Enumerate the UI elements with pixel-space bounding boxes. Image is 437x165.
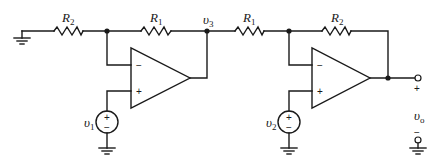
opamp2-plus: + bbox=[317, 86, 323, 97]
ground-v2-icon bbox=[281, 148, 297, 154]
node-output bbox=[385, 75, 390, 80]
wire bbox=[107, 91, 131, 111]
resistor-r1-right bbox=[235, 27, 264, 35]
ground-v1-icon bbox=[99, 148, 115, 154]
source2-minus: − bbox=[286, 122, 292, 133]
output-terminal-minus bbox=[415, 137, 421, 143]
label-v3: υ3 bbox=[203, 12, 214, 29]
circuit-diagram: − + + − − + + − + − R2 bbox=[0, 0, 437, 165]
wire bbox=[289, 31, 312, 65]
ground-output-icon bbox=[410, 148, 426, 154]
wire bbox=[190, 31, 207, 78]
label-r2-right: R2 bbox=[330, 10, 343, 27]
output-minus-sign: − bbox=[414, 127, 420, 138]
wire bbox=[107, 31, 131, 65]
label-r1-left: R1 bbox=[149, 10, 162, 27]
opamp-2 bbox=[312, 48, 370, 108]
node-v3 bbox=[204, 28, 209, 33]
resistor-r1-left bbox=[141, 27, 171, 35]
output-plus-sign: + bbox=[414, 83, 420, 94]
ground-left-icon bbox=[14, 31, 30, 44]
output-terminal-plus bbox=[415, 75, 421, 81]
wire bbox=[289, 91, 312, 111]
opamp2-minus: − bbox=[317, 60, 323, 71]
opamp1-minus: − bbox=[136, 60, 142, 71]
resistor-r2-left bbox=[54, 27, 83, 35]
opamp1-plus: + bbox=[136, 86, 142, 97]
label-r1-right: R1 bbox=[242, 10, 255, 27]
resistor-r2-right bbox=[322, 27, 351, 35]
label-vo: υo bbox=[414, 108, 425, 125]
opamp-1 bbox=[131, 48, 190, 108]
label-v1: υ1 bbox=[84, 115, 94, 132]
label-r2-left: R2 bbox=[61, 10, 74, 27]
source1-minus: − bbox=[104, 122, 110, 133]
label-v2: υ2 bbox=[266, 115, 276, 132]
